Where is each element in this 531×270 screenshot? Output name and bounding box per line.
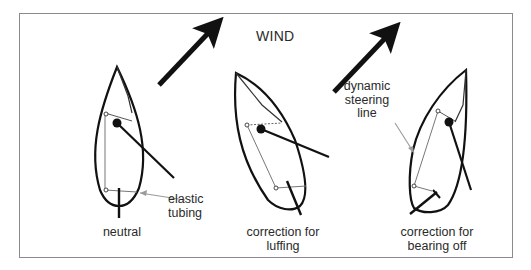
callout-line: tubing bbox=[168, 207, 203, 221]
callout-line: dynamic bbox=[341, 80, 393, 94]
callout-elastic-tubing: elastic tubing bbox=[168, 193, 203, 220]
callout-dynamic-steering-line: dynamic steering line bbox=[341, 80, 393, 121]
wind-arrow-icon bbox=[159, 27, 214, 85]
caption-neutral: neutral bbox=[97, 226, 147, 240]
caption-line: luffing bbox=[237, 240, 329, 254]
caption-line: correction for bbox=[237, 226, 329, 240]
sailing-steering-diagram: WIND neutral elastic tubing correction f… bbox=[0, 0, 531, 270]
callout-line: steering bbox=[341, 94, 393, 108]
caption-line: neutral bbox=[97, 226, 147, 240]
boat-bearing-off-icon bbox=[410, 70, 471, 214]
caption-line: bearing off bbox=[391, 240, 483, 254]
callout-line: elastic bbox=[168, 193, 203, 207]
caption-luffing: correction for luffing bbox=[237, 226, 329, 253]
caption-bearing-off: correction for bearing off bbox=[391, 226, 483, 253]
callout-line: line bbox=[341, 107, 393, 121]
wind-label: WIND bbox=[256, 28, 295, 44]
caption-line: correction for bbox=[391, 226, 483, 240]
boat-luffing-icon bbox=[235, 73, 329, 215]
boat-neutral-icon bbox=[95, 67, 174, 218]
